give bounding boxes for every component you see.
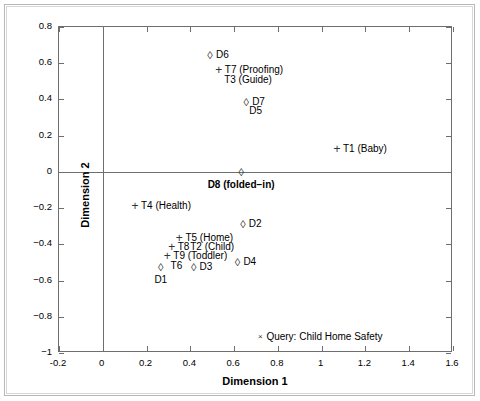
x-axis-tick	[278, 27, 279, 32]
y-axis-tick-label: 0.8	[14, 21, 52, 31]
x-axis-tick-label: 0.2	[139, 358, 152, 368]
plus-marker-icon: +	[215, 64, 222, 76]
x-axis-tick	[147, 27, 148, 32]
data-point-label: T4 (Health)	[141, 201, 191, 212]
y-axis-tick-label: −0.4	[14, 239, 52, 249]
x-axis-tick-label: 0.6	[227, 358, 240, 368]
y-axis-tick-label: 0.6	[14, 57, 52, 67]
y-axis-tick-label: −1	[14, 347, 52, 357]
x-axis-tick-label: 0.8	[270, 358, 283, 368]
x-axis-tick-label: 0.4	[183, 358, 196, 368]
x-axis-tick	[147, 346, 148, 351]
x-axis-tick	[59, 346, 60, 351]
y-axis-tick	[59, 63, 64, 64]
cross-marker-icon: ×	[258, 333, 263, 341]
diamond-marker-icon: ◊	[240, 218, 245, 229]
x-axis-title: Dimension 1	[58, 375, 452, 387]
plot-area: ◊D6+T7 (Proofing)T3 (Guide)◊D7D5+T1 (Bab…	[58, 26, 452, 352]
data-point-label: D2	[249, 218, 262, 229]
data-point-label: D4	[243, 256, 256, 267]
x-axis-tick	[190, 346, 191, 351]
x-axis-tick	[409, 346, 410, 351]
y-axis-tick	[446, 208, 451, 209]
diamond-marker-icon: ◊	[207, 50, 212, 61]
plus-marker-icon: +	[333, 143, 340, 155]
y-axis-tick	[446, 99, 451, 100]
y-axis-tick	[446, 27, 451, 28]
x-axis-tick-label: 1	[318, 358, 323, 368]
data-point-label: D1	[154, 275, 167, 286]
y-axis-tick	[446, 317, 451, 318]
x-axis-tick	[103, 27, 104, 32]
x-axis-tick	[234, 346, 235, 351]
data-point-label: D6	[216, 50, 229, 61]
x-axis-tick	[234, 27, 235, 32]
y-axis-tick	[59, 317, 64, 318]
y-axis-tick	[59, 353, 64, 354]
diamond-marker-icon: ◊	[191, 261, 196, 272]
y-axis-tick	[59, 172, 64, 173]
y-axis-tick	[59, 208, 64, 209]
data-point-label: Query: Child Home Safety	[266, 331, 382, 342]
data-point-label: D5	[249, 106, 262, 117]
y-axis-tick	[59, 99, 64, 100]
y-axis-tick-label: −0.2	[14, 202, 52, 212]
data-point-label: T6	[171, 261, 183, 272]
origin-line-vertical	[103, 27, 104, 351]
diamond-marker-icon: ◊	[235, 256, 240, 267]
data-point-label: T3 (Guide)	[224, 74, 272, 85]
data-point-label: T1 (Baby)	[343, 144, 387, 155]
y-axis-tick-label: 0.4	[14, 94, 52, 104]
y-axis-tick	[446, 172, 451, 173]
y-axis-tick-label: −0.6	[14, 275, 52, 285]
y-axis-tick	[59, 244, 64, 245]
y-axis-title: Dimension 2	[79, 32, 91, 358]
y-axis-tick	[446, 244, 451, 245]
y-axis-tick	[59, 136, 64, 137]
x-axis-tick	[322, 27, 323, 32]
x-axis-tick-label: 1.6	[445, 358, 458, 368]
diamond-marker-icon: ◊	[158, 261, 163, 272]
y-axis-tick	[446, 63, 451, 64]
x-axis-tick	[322, 346, 323, 351]
x-axis-tick	[103, 346, 104, 351]
y-axis-tick-label: 0	[14, 166, 52, 176]
x-axis-tick-label: 1.4	[402, 358, 415, 368]
x-axis-tick	[365, 346, 366, 351]
x-axis-tick-label: -0.2	[50, 358, 66, 368]
y-axis-tick	[446, 353, 451, 354]
y-axis-tick	[59, 281, 64, 282]
x-axis-tick	[365, 27, 366, 32]
x-axis-tick	[453, 27, 454, 32]
x-axis-tick	[409, 27, 410, 32]
y-axis-tick-label: 0.2	[14, 130, 52, 140]
plus-marker-icon: +	[131, 200, 138, 212]
y-axis-tick	[446, 136, 451, 137]
y-axis-tick	[59, 27, 64, 28]
y-axis-tick	[446, 281, 451, 282]
data-point-label: D8 (folded−in)	[208, 180, 275, 191]
diamond-marker-icon: ◊	[238, 166, 243, 177]
x-axis-tick	[278, 346, 279, 351]
scatter-plot-figure: ◊D6+T7 (Proofing)T3 (Guide)◊D7D5+T1 (Bab…	[0, 0, 480, 401]
data-point-label: D3	[200, 262, 213, 273]
x-axis-tick	[190, 27, 191, 32]
x-axis-tick	[453, 346, 454, 351]
origin-line-horizontal	[59, 172, 451, 173]
diamond-marker-icon: ◊	[243, 97, 248, 108]
x-axis-tick-label: 0	[99, 358, 104, 368]
x-axis-tick-label: 1.2	[358, 358, 371, 368]
y-axis-tick-label: −0.8	[14, 311, 52, 321]
